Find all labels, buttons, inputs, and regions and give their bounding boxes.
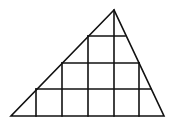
horizontal-grid-lines <box>36 36 151 89</box>
diagram-svg <box>0 0 177 125</box>
triangle-grid-diagram <box>0 0 177 125</box>
